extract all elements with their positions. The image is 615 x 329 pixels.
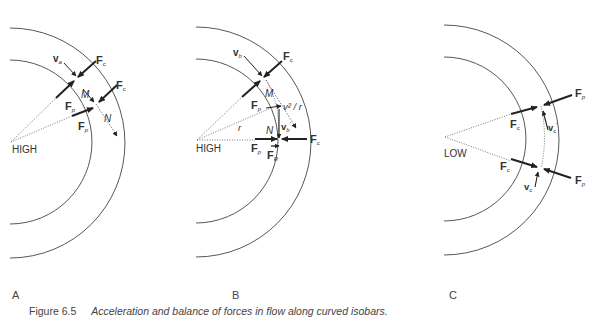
label-fc: Fc [116,79,126,92]
pressure-force-arrow [544,169,571,178]
pressure-force-arrow [72,108,93,116]
isobar-inner [444,57,526,221]
label-vc-prime: vc′ [548,122,558,134]
velocity-arrow [64,63,76,76]
isobar-outer [444,25,559,255]
label-fc: Fc [283,50,293,63]
label-fc: Fc [510,118,520,131]
velocity-arrow [535,172,538,187]
isobar-inner [10,60,92,224]
coriolis-force-arrow [78,61,96,77]
coriolis-force-arrow [511,159,537,167]
radius-line [445,114,511,137]
panel-label-c: C [449,289,457,301]
radius-line [11,116,72,142]
panel-a: va Fc Fc M Fp N Fp HIGH [10,28,126,258]
isobar-inner [196,59,278,223]
label-fc: Fc [310,133,320,146]
label-fp: Fp [251,99,262,112]
label-centripetal-accel: v² / r [283,101,303,112]
label-point-m: M [81,89,90,100]
label-fp: Fp [575,174,586,187]
isobar-outer [10,28,125,258]
label-point-n: N [104,113,112,124]
label-fp: Fp [78,120,89,133]
coriolis-force-arrow [99,85,117,102]
label-fc: Fc [96,54,106,67]
panel-c: Fp Fc vc′ LOW Fc Fp vc [444,25,586,255]
radius-line [11,98,56,142]
coriolis-force-arrow [264,61,282,77]
figure-number: Figure 6.5 [29,305,76,317]
label-vb: vb [233,47,243,59]
pressure-force-arrow [56,81,74,98]
panel-label-b: B [232,289,239,301]
velocity-arrow [244,56,262,76]
label-low: LOW [444,148,467,159]
label-high: HIGH [196,143,221,154]
figure-diagram: va Fc Fc M Fp N Fp HIGH vb [0,0,615,329]
label-fp: Fp [251,142,262,155]
label-fp: Fp [65,100,76,113]
label-fp: Fp [575,87,586,100]
label-radius-r: r [238,122,242,133]
label-va: va [53,53,63,65]
centripetal-accel-arrow [266,106,281,108]
coriolis-force-arrow [511,107,537,114]
panel-b: vb Fc M Fp v² / r r N vb′ Fc Fp FR HIGH [196,27,320,257]
pressure-force-arrow [544,95,572,105]
label-high: HIGH [12,144,37,155]
label-vb-prime: vb′ [281,121,292,133]
label-point-m: M [265,88,274,99]
caption-text: Acceleration and balance of forces in fl… [91,305,388,317]
pressure-force-arrow [242,81,260,97]
radius-line [197,97,242,140]
label-vc: vc [524,181,532,193]
radius-line [197,108,271,140]
panel-label-a: A [12,289,19,301]
figure-caption: Figure 6.5 Acceleration and balance of f… [29,305,388,317]
label-point-n: N [266,125,274,136]
label-fc: Fc [500,160,510,173]
